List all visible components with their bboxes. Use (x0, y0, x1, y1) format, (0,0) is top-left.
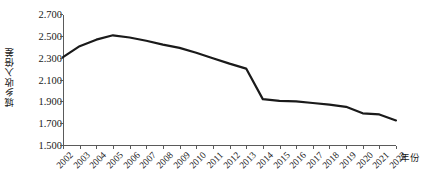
y-tick-mark (60, 101, 63, 102)
x-tick-mark (113, 146, 114, 149)
y-tick-mark (60, 123, 63, 124)
y-tick-mark (60, 80, 63, 81)
x-tick-mark (396, 146, 397, 149)
x-tick-mark (63, 146, 64, 149)
x-tick-mark (296, 146, 297, 149)
y-tick-mark (60, 36, 63, 37)
x-tick-mark (246, 146, 247, 149)
y-tick-mark (60, 14, 63, 15)
y-tick-label: 2.300 (20, 52, 62, 63)
x-tick-mark (96, 146, 97, 149)
y-tick-label: 1.900 (20, 96, 62, 107)
plot-area (63, 14, 396, 146)
x-tick-mark (230, 146, 231, 149)
y-tick-label: 2.700 (20, 9, 62, 20)
x-tick-mark (80, 146, 81, 149)
x-tick-mark (329, 146, 330, 149)
x-tick-mark (146, 146, 147, 149)
x-tick-mark (280, 146, 281, 149)
x-tick-mark (130, 146, 131, 149)
x-tick-mark (346, 146, 347, 149)
series-line (63, 14, 396, 146)
x-tick-mark (196, 146, 197, 149)
x-tick-mark (363, 146, 364, 149)
x-tick-mark (379, 146, 380, 149)
y-tick-label: 2.100 (20, 74, 62, 85)
y-tick-label: 2.500 (20, 30, 62, 41)
x-tick-mark (313, 146, 314, 149)
y-tick-label: 1.700 (20, 118, 62, 129)
y-tick-label: 1.500 (20, 140, 62, 151)
y-tick-mark (60, 58, 63, 59)
x-tick-mark (213, 146, 214, 149)
x-tick-mark (163, 146, 164, 149)
chart-figure: 城乡收入倍差 2.7002.5002.3002.1001.9001.7001.5… (0, 0, 425, 181)
x-tick-mark (180, 146, 181, 149)
x-tick-mark (263, 146, 264, 149)
y-axis-tick-labels: 2.7002.5002.3002.1001.9001.7001.500 (16, 0, 62, 181)
